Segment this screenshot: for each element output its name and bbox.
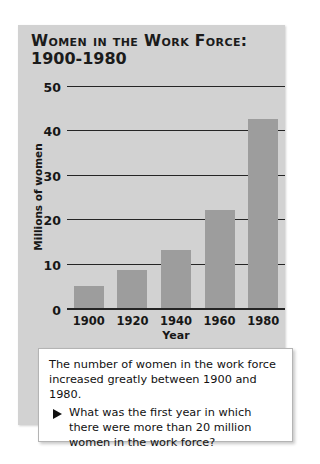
bar-1980 <box>248 119 278 308</box>
y-tick-label-20: 20 <box>44 213 61 228</box>
x-axis-title: Year <box>67 329 285 342</box>
bar-1940 <box>161 250 191 308</box>
triangle-right-icon <box>53 409 62 419</box>
x-tick-label-1980: 1980 <box>247 314 279 328</box>
y-axis-title: Millions of women <box>31 86 45 308</box>
bar-1960 <box>205 210 235 308</box>
plot-area: 50 40 30 20 10 0 19001920194019601980 Ye… <box>67 86 285 308</box>
y-axis-title-label: Millions of women <box>32 143 44 250</box>
x-tick-label-1940: 1940 <box>160 314 192 328</box>
caption-question-text: What was the first year in which there w… <box>69 405 283 450</box>
bar-1920 <box>117 270 147 308</box>
y-tick-label-50: 50 <box>44 80 61 95</box>
x-tick-label-1900: 1900 <box>73 314 105 328</box>
caption-box: The number of women in the work force in… <box>38 348 293 442</box>
caption-question-row: What was the first year in which there w… <box>49 405 283 450</box>
y-tick-label-0: 0 <box>52 303 61 318</box>
y-tick-label-10: 10 <box>44 257 61 272</box>
caption-intro-text: The number of women in the work force in… <box>49 357 283 402</box>
bar-1900 <box>74 286 104 308</box>
y-tick-label-40: 40 <box>44 124 61 139</box>
x-tick-label-1960: 1960 <box>204 314 236 328</box>
chart-title-line-1: Women in the Work Force: <box>31 33 279 50</box>
x-tick-label-1920: 1920 <box>116 314 148 328</box>
chart-title: Women in the Work Force: 1900-1980 <box>31 33 279 67</box>
bar-series <box>67 86 285 308</box>
x-axis-line: 0 <box>67 308 285 310</box>
chart-title-line-2: 1900-1980 <box>31 50 279 67</box>
y-tick-label-30: 30 <box>44 168 61 183</box>
